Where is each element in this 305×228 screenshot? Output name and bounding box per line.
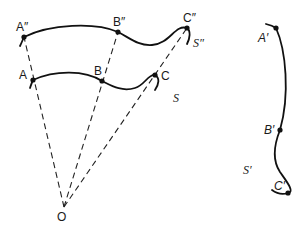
point-c (152, 72, 157, 77)
point-b (99, 78, 104, 83)
label-s-prime: S′ (243, 163, 252, 177)
point-a (30, 77, 35, 82)
point-b-double-prime (115, 29, 120, 34)
label-a-prime: A′ (257, 31, 269, 45)
curve-s-prime (266, 24, 291, 194)
point-a-double-prime (21, 34, 26, 39)
label-o: O (57, 210, 66, 224)
projection-diagram: A″ B″ C″ S″ A B C S O A′ B′ C′ S′ (0, 0, 305, 228)
label-a: A (19, 68, 27, 82)
label-s-double-prime: S″ (193, 36, 205, 50)
label-b-prime: B′ (264, 123, 275, 137)
ray-o-b (64, 32, 118, 207)
label-c-prime: C′ (274, 179, 286, 193)
point-c-double-prime (184, 25, 189, 30)
label-b-double-prime: B″ (113, 15, 126, 29)
point-c-prime (285, 190, 290, 195)
label-c: C (161, 69, 170, 83)
label-c-double-prime: C″ (183, 11, 197, 25)
label-a-double-prime: A″ (16, 20, 29, 34)
point-a-prime (273, 25, 278, 30)
label-s: S (173, 91, 179, 105)
label-b: B (94, 64, 102, 78)
ray-o-c (64, 28, 187, 207)
point-b-prime (277, 127, 282, 132)
ray-o-a (24, 37, 64, 207)
curve-s-double-prime (20, 26, 190, 46)
